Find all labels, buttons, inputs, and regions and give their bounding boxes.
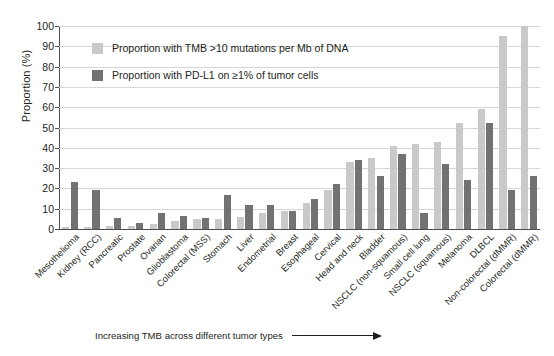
legend-item-pdl1: Proportion with PD-L1 on ≥1% of tumor ce… — [92, 65, 348, 85]
bar-group — [478, 26, 494, 229]
increasing-arrow-icon — [292, 331, 382, 340]
bar — [259, 213, 266, 229]
bar — [71, 182, 78, 229]
bar — [158, 213, 165, 229]
bar — [355, 160, 362, 229]
bar — [84, 227, 91, 229]
bar — [456, 123, 463, 229]
bar-group — [499, 26, 515, 229]
bar — [486, 123, 493, 229]
x-axis-category-labels: MesotheliomaKidney (RCC)PancreaticProsta… — [59, 232, 540, 327]
chart-legend: Proportion with TMB >10 mutations per Mb… — [92, 38, 348, 92]
bar — [92, 190, 99, 229]
legend-swatch-pdl1-icon — [92, 70, 103, 81]
bar-group — [456, 26, 472, 229]
y-tick-label: 90 — [14, 41, 54, 52]
bar — [62, 227, 69, 229]
bar — [267, 205, 274, 229]
bar — [368, 158, 375, 229]
bar — [346, 162, 353, 229]
bar — [390, 146, 397, 229]
bar — [245, 205, 252, 229]
bar-group — [434, 26, 450, 229]
y-tick-label: 20 — [14, 183, 54, 194]
bar — [508, 190, 515, 229]
bar-group — [390, 26, 406, 229]
bar — [434, 142, 441, 229]
y-tick-label: 40 — [14, 143, 54, 154]
bar — [171, 221, 178, 229]
bar — [215, 219, 222, 229]
bar — [202, 218, 209, 229]
bar — [237, 217, 244, 229]
bar — [281, 211, 288, 229]
bar-group — [368, 26, 384, 229]
y-tick-label: 10 — [14, 203, 54, 214]
bar — [136, 223, 143, 229]
bar — [128, 226, 135, 229]
bar — [420, 213, 427, 229]
bar — [324, 190, 331, 229]
legend-label-pdl1: Proportion with PD-L1 on ≥1% of tumor ce… — [112, 69, 319, 81]
y-tick-label: 60 — [14, 102, 54, 113]
bar-group — [412, 26, 428, 229]
bar — [530, 176, 537, 229]
bar — [478, 109, 485, 229]
bar — [521, 26, 528, 229]
bar — [180, 216, 187, 229]
chart-caption: Increasing TMB across different tumor ty… — [95, 330, 382, 341]
bar — [412, 144, 419, 229]
bar — [303, 203, 310, 229]
y-tick-label: 80 — [14, 61, 54, 72]
bar — [106, 226, 113, 229]
bar-group — [521, 26, 537, 229]
caption-text: Increasing TMB across different tumor ty… — [95, 330, 283, 341]
bar — [442, 164, 449, 229]
bar — [499, 36, 506, 229]
y-tick-label: 30 — [14, 163, 54, 174]
bar — [150, 224, 157, 229]
bar — [333, 184, 340, 229]
bar — [377, 176, 384, 229]
bar — [114, 218, 121, 229]
tmb-pdl1-bar-chart: Proportion (%) 0102030405060708090100 Pr… — [0, 0, 554, 356]
bar — [464, 180, 471, 229]
y-tick-label: 50 — [14, 122, 54, 133]
bar — [193, 219, 200, 229]
y-tick-label: 100 — [14, 21, 54, 32]
bar-group — [62, 26, 78, 229]
legend-swatch-tmb-icon — [92, 43, 103, 54]
bar — [224, 195, 231, 230]
bar — [398, 154, 405, 229]
bar-group — [346, 26, 362, 229]
bar — [311, 199, 318, 229]
legend-label-tmb: Proportion with TMB >10 mutations per Mb… — [112, 42, 348, 54]
legend-item-tmb: Proportion with TMB >10 mutations per Mb… — [92, 38, 348, 58]
y-tick-label: 70 — [14, 82, 54, 93]
bar — [289, 211, 296, 229]
y-tick-label: 0 — [14, 224, 54, 235]
